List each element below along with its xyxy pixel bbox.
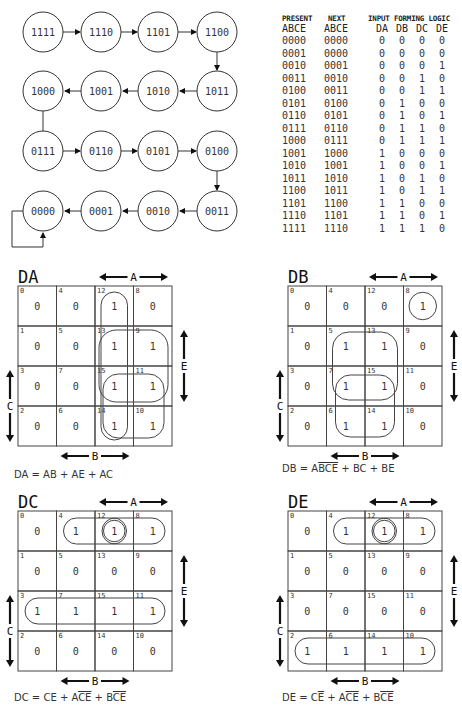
arrowhead-icon <box>61 452 68 460</box>
da-value: 0 <box>372 73 392 84</box>
next-state: 0001 <box>324 60 372 71</box>
kmap-title: DA <box>18 268 38 287</box>
next-state: 0101 <box>324 110 372 121</box>
kmap-cell-value: 1 <box>150 526 156 537</box>
kmap-cell-value: 0 <box>34 301 40 312</box>
equation-db: DB = ABCE + BC + BE <box>282 463 394 474</box>
next-state: 0011 <box>324 85 372 96</box>
next-state: 1011 <box>324 185 372 196</box>
axis-label-top: A <box>400 496 407 509</box>
db-value: 1 <box>392 135 412 146</box>
state-node: 1100 <box>197 12 237 52</box>
arrowhead-icon <box>331 677 338 685</box>
kmap-db-svg: DB00401208110511319030711511102061141100… <box>270 268 462 468</box>
kmap-cell-value: 0 <box>420 381 426 392</box>
kmap-cell-value: 0 <box>111 646 117 657</box>
kmap-cell-number: 5 <box>59 327 63 335</box>
kmap-cell-number: 0 <box>20 287 24 295</box>
kmap-cell-value: 0 <box>73 341 79 352</box>
next-state: 0111 <box>324 135 372 146</box>
state-label: 1010 <box>146 86 170 97</box>
kmap-cell-number: 8 <box>406 512 410 520</box>
arrowhead-icon <box>61 677 68 685</box>
kmap-cell-value: 1 <box>343 526 349 537</box>
kmap-cell-number: 10 <box>136 632 144 640</box>
kmap-cell-number: 2 <box>290 632 294 640</box>
kmap-da: DA00401218010501319130701511112060141101… <box>0 268 200 468</box>
kmap-cell-value: 1 <box>381 646 387 657</box>
kmap-cell-value: 0 <box>343 606 349 617</box>
next-state: 1000 <box>324 148 372 159</box>
de-value: 0 <box>432 98 452 109</box>
axis-label-left: C <box>7 400 14 413</box>
kmap-cell-number: 9 <box>136 327 140 335</box>
kmap-cell-value: 0 <box>420 566 426 577</box>
kmap-cell-value: 1 <box>343 381 349 392</box>
present-state: 1110 <box>282 210 324 221</box>
db-value: 0 <box>392 48 412 59</box>
kmap-cell-value: 0 <box>150 646 156 657</box>
kmap-cell-number: 8 <box>136 287 140 295</box>
state-node: 0111 <box>23 131 63 171</box>
present-state: 1001 <box>282 148 324 159</box>
kmap-cell-value: 1 <box>420 646 426 657</box>
arrowhead-icon <box>180 330 188 337</box>
kmap-cell-number: 14 <box>97 632 105 640</box>
db-value: 0 <box>392 85 412 96</box>
kmap-cell-number: 4 <box>59 512 63 520</box>
axis-label-right: E <box>181 360 188 373</box>
da-value: 1 <box>372 198 392 209</box>
kmap-cell-value: 1 <box>420 301 426 312</box>
next-state: 0010 <box>324 73 372 84</box>
kmap-title: DB <box>288 268 308 287</box>
kmap-cell-number: 10 <box>406 407 414 415</box>
kmap-cell-value: 0 <box>150 301 156 312</box>
kmap-cell-number: 0 <box>290 512 294 520</box>
kmap-cell-value: 0 <box>304 301 310 312</box>
next-state: 1010 <box>324 173 372 184</box>
truth-table-body: 0000000000000001000000000010000100010011… <box>282 35 452 235</box>
truth-table-row: 001100100010 <box>282 73 452 86</box>
axis-label-right: E <box>181 585 188 598</box>
next-state: 0000 <box>324 35 372 46</box>
kmap-cell-value: 0 <box>150 566 156 577</box>
kmap-cell-number: 13 <box>97 552 105 560</box>
equation-da: DA = AB + AE + AC <box>14 469 113 480</box>
da-value: 1 <box>372 210 392 221</box>
kmap-cell-number: 12 <box>367 287 375 295</box>
kmap-cell-value: 1 <box>420 526 426 537</box>
dc-value: 1 <box>412 123 432 134</box>
arrowhead-icon <box>123 677 130 685</box>
truth-table-row: 111011011101 <box>282 210 452 223</box>
truth-table-row: 110111001100 <box>282 198 452 211</box>
kmap-cell-value: 1 <box>304 646 310 657</box>
state-node: 0011 <box>197 191 237 231</box>
state-label: 0010 <box>146 206 170 217</box>
kmap-cell-number: 2 <box>20 632 24 640</box>
next-state: 0000 <box>324 48 372 59</box>
kmap-cell-value: 1 <box>381 381 387 392</box>
kmap-cell-number: 2 <box>290 407 294 415</box>
db-value: 0 <box>392 60 412 71</box>
truth-table-row: 100110001000 <box>282 148 452 161</box>
da-value: 0 <box>372 35 392 46</box>
kmap-cell-value: 0 <box>420 421 426 432</box>
arrowhead-icon <box>161 498 168 506</box>
kmap-cell-number: 4 <box>329 287 333 295</box>
kmap-cell-value: 1 <box>381 526 387 537</box>
kmap-cell-value: 1 <box>111 526 117 537</box>
db-value: 0 <box>392 173 412 184</box>
truth-table-row: 011001010101 <box>282 110 452 123</box>
de-value: 1 <box>432 210 452 221</box>
kmap-cell-value: 0 <box>381 566 387 577</box>
axis-label-top: A <box>130 496 137 509</box>
kmap-cell-number: 8 <box>136 512 140 520</box>
dc-value: 1 <box>412 85 432 96</box>
kmap-cell-value: 0 <box>304 381 310 392</box>
state-node: 0110 <box>81 131 121 171</box>
db-value: 1 <box>392 123 412 134</box>
present-state: 0001 <box>282 48 324 59</box>
db-value: 0 <box>392 185 412 196</box>
state-node: 0001 <box>81 191 121 231</box>
da-value: 0 <box>372 48 392 59</box>
